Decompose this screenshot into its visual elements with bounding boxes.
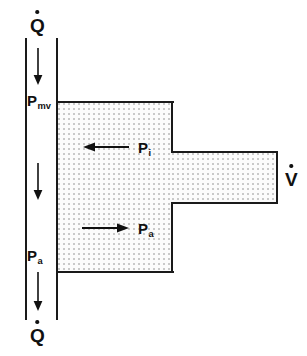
pressure-mv-symbol: P (27, 92, 37, 109)
pressure-a-chamber-label: Pa (138, 221, 153, 236)
heat-flow-rate-top-label: Q (30, 16, 45, 35)
q-glyph-top: Q (30, 15, 45, 36)
pressure-a-chamber-subscript: a (148, 229, 153, 239)
pressure-a-channel-symbol: P (27, 247, 37, 264)
pressure-i-label: Pi (138, 140, 151, 155)
v-dot-symbol: V (285, 170, 298, 189)
chamber-right-edge-lower (171, 202, 173, 273)
main-chamber-fill (58, 103, 172, 272)
pressure-i-subscript: i (148, 148, 151, 158)
q-glyph-bottom: Q (30, 325, 45, 346)
chamber-right-edge-upper (171, 101, 173, 153)
flow-arrow-channel-middle (32, 163, 44, 201)
pressure-mv-label: Pmv (27, 93, 50, 108)
chamber-top-edge (56, 101, 174, 103)
overdot-icon (36, 320, 40, 324)
channel-right-wall-middle (56, 102, 58, 273)
overdot-icon (36, 10, 40, 14)
flow-arrow-chamber-upper (82, 141, 130, 153)
diagram-canvas: Q Q V Pmv Pi Pa Pa (0, 0, 307, 356)
nozzle-fill (172, 153, 277, 203)
pressure-mv-subscript: mv (37, 101, 50, 111)
pressure-a-channel-label: Pa (27, 248, 42, 263)
overdot-icon (290, 164, 294, 168)
q-dot-symbol-top: Q (30, 16, 45, 35)
channel-right-wall-upper (56, 38, 58, 103)
v-glyph: V (285, 169, 298, 190)
nozzle-top-edge (171, 151, 278, 153)
nozzle-bottom-edge (171, 202, 278, 204)
channel-left-wall (25, 38, 27, 320)
chamber-bottom-edge (56, 271, 174, 273)
flow-arrow-channel-bottom (32, 272, 44, 312)
pressure-a-channel-subscript: a (37, 256, 42, 266)
flow-arrow-channel-top (32, 48, 44, 86)
channel-right-wall-lower (56, 271, 58, 320)
pressure-i-symbol: P (138, 139, 148, 156)
pressure-a-chamber-symbol: P (138, 220, 148, 237)
nozzle-right-edge (276, 151, 278, 204)
volumetric-flow-rate-label: V (285, 170, 298, 189)
q-dot-symbol-bottom: Q (30, 326, 45, 345)
heat-flow-rate-bottom-label: Q (30, 326, 45, 345)
flow-arrow-chamber-lower (82, 222, 130, 234)
